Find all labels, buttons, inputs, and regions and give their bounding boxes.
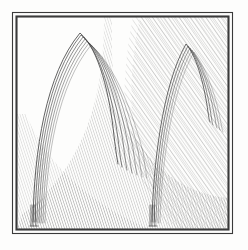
engraving-canvas — [0, 0, 248, 250]
engraving-plate — [0, 0, 248, 250]
